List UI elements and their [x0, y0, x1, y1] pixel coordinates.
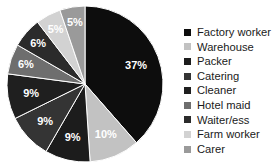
legend-item-label: Catering [197, 69, 239, 84]
legend-item-label: Factory worker [197, 25, 271, 40]
pie-slice-label: 6% [18, 58, 34, 70]
legend-item[interactable]: Waiter/ess [184, 113, 278, 128]
pie-slice-label: 5% [67, 16, 83, 28]
legend-item[interactable]: Catering [184, 69, 278, 84]
pie-slice-label: 9% [23, 87, 39, 99]
pie-slice-label: 37% [125, 59, 147, 71]
chart-legend: Factory workerWarehousePackerCateringCle… [184, 25, 278, 156]
legend-swatch-icon [184, 102, 191, 109]
legend-swatch-icon [184, 131, 191, 138]
pie-chart-figure: 37%10%9%9%9%6%6%5%5% Factory workerWareh… [0, 0, 278, 166]
legend-item[interactable]: Factory worker [184, 25, 278, 40]
legend-item-label: Hotel maid [197, 98, 250, 113]
pie-slice-label: 6% [30, 37, 46, 49]
legend-item-label: Cleaner [197, 83, 236, 98]
legend-item-label: Carer [197, 142, 225, 157]
legend-item-label: Waiter/ess [197, 113, 249, 128]
legend-swatch-icon [184, 29, 191, 36]
legend-item-label: Warehouse [197, 40, 254, 55]
legend-swatch-icon [184, 58, 191, 65]
legend-swatch-icon [184, 116, 191, 123]
pie-slice-label: 9% [37, 115, 53, 127]
legend-swatch-icon [184, 73, 191, 80]
legend-swatch-icon [184, 43, 191, 50]
legend-item[interactable]: Cleaner [184, 83, 278, 98]
legend-item[interactable]: Warehouse [184, 40, 278, 55]
legend-item-label: Farm worker [197, 127, 260, 142]
legend-item[interactable]: Farm worker [184, 127, 278, 142]
pie-slice-label: 5% [48, 23, 64, 35]
legend-swatch-icon [184, 87, 191, 94]
legend-item-label: Packer [197, 54, 232, 69]
legend-item[interactable]: Carer [184, 142, 278, 157]
legend-item[interactable]: Packer [184, 54, 278, 69]
legend-item[interactable]: Hotel maid [184, 98, 278, 113]
pie-slice-label: 9% [65, 131, 81, 143]
pie-svg: 37%10%9%9%9%6%6%5%5% [0, 0, 172, 166]
pie-plot-area: 37%10%9%9%9%6%6%5%5% [0, 0, 172, 166]
legend-swatch-icon [184, 146, 191, 153]
pie-slice-label: 10% [95, 128, 117, 140]
